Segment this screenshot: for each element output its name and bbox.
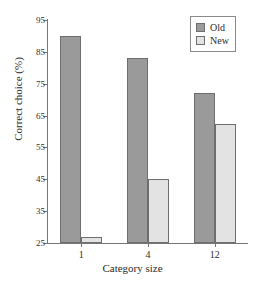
legend-swatch-icon xyxy=(196,23,205,32)
bar-new-4 xyxy=(148,179,169,243)
legend-item-new[interactable]: New xyxy=(196,34,229,47)
y-tick-label: 65 xyxy=(36,111,45,120)
chart-legend: OldNew xyxy=(190,16,236,52)
bar-new-1 xyxy=(81,237,102,243)
legend-label: New xyxy=(210,35,229,46)
y-tick-label: 45 xyxy=(36,175,45,184)
bar-new-12 xyxy=(215,124,236,243)
x-tick-mark xyxy=(148,243,149,247)
x-tick-label: 1 xyxy=(79,249,84,260)
legend-item-old[interactable]: Old xyxy=(196,21,229,34)
y-tick-label: 95 xyxy=(36,16,45,25)
bar-old-12 xyxy=(194,93,215,243)
legend-swatch-icon xyxy=(196,36,205,45)
y-axis-title: Correct choice (%) xyxy=(12,29,24,169)
y-tick-label: 75 xyxy=(36,79,45,88)
x-tick-mark xyxy=(215,243,216,247)
x-tick-label: 4 xyxy=(146,249,151,260)
y-tick-label: 85 xyxy=(36,47,45,56)
bar-old-4 xyxy=(127,58,148,243)
y-tick-label: 35 xyxy=(36,207,45,216)
x-tick-mark xyxy=(81,243,82,247)
y-tick-label: 55 xyxy=(36,143,45,152)
bar-chart-figure: 2535455565758595 1412 Correct choice (%)… xyxy=(0,0,265,293)
bar-old-1 xyxy=(60,36,81,243)
x-tick-label: 12 xyxy=(210,249,220,260)
plot-area: 2535455565758595 1412 xyxy=(48,20,248,243)
x-axis-title: Category size xyxy=(0,262,265,274)
y-tick-label: 25 xyxy=(36,239,45,248)
legend-label: Old xyxy=(210,22,225,33)
